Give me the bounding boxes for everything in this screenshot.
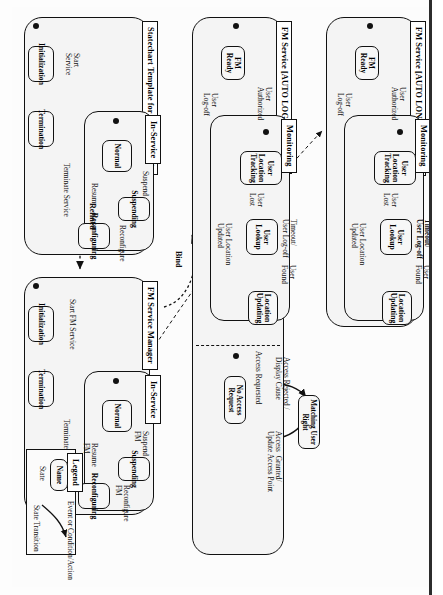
initial-pseudostate (367, 23, 373, 29)
orthogonal-region-separator (196, 345, 280, 346)
state-no-access-request[interactable]: No Access Request (224, 376, 246, 424)
initial-pseudostate (397, 129, 403, 135)
transition-label-user-location-updated: User Location Updated (349, 223, 366, 265)
legend-state-sample: Name (50, 459, 68, 491)
transition-label-access-rejected: Access Rejected / Display Cause (273, 357, 290, 410)
transition-label-user-authorized: User Authorized (255, 87, 272, 120)
subregion-monitoring-true[interactable] (210, 115, 290, 321)
state-suspending[interactable]: Suspending (118, 197, 150, 221)
legend-state-caption: State (38, 466, 46, 481)
initial-pseudostate (113, 118, 119, 124)
transition-label-access-granted: Access Granted/ Update Access Point (265, 431, 282, 492)
state-termination[interactable]: Termination (28, 371, 54, 407)
state-fm-ready[interactable]: FM Ready (221, 46, 245, 80)
transition-label-user-lost: User Lost (247, 193, 264, 207)
transition-label-user-found: User Found (413, 265, 430, 284)
state-initialization[interactable]: Initialization (28, 46, 54, 82)
state-normal[interactable]: Normal (102, 140, 132, 172)
transition-label-user-location-updated: User Location Updated (215, 223, 232, 265)
transition-label-start-fm-service: Start FM Service (68, 299, 76, 350)
legend-transition-caption: State Transition (32, 505, 40, 552)
state-location-updating[interactable]: Location Updating (248, 291, 278, 325)
transition-label-user-found: User Found (279, 265, 296, 284)
state-user-location-tracking[interactable]: User Location Tracking (374, 151, 416, 185)
transition-label-user-log-off: User Log-off (335, 93, 352, 116)
transition-label-timeout-user-log-off: Timeout/ User Log-off (280, 219, 297, 258)
transition-label-user-authorized: User Authorized (389, 87, 406, 120)
initial-pseudostate (233, 353, 239, 359)
relation-label-refined: Refined (87, 203, 96, 230)
transition-label-start-service: Start Service (63, 53, 80, 75)
transition-label-reconfigure: Reconfigure (118, 225, 126, 262)
state-user-location-tracking[interactable]: User Location Tracking (240, 151, 282, 185)
state-normal[interactable]: Normal (102, 400, 132, 432)
page-scan-edge (429, 0, 432, 595)
transition-label-access-requested: Access Requested (254, 351, 262, 405)
state-user-lookup[interactable]: User Lookup (380, 219, 412, 255)
transition-label-user-lost: User Lost (381, 193, 398, 207)
initial-pseudostate (33, 23, 39, 29)
region-title-fm-service-manager: FM Service Manager (142, 281, 158, 370)
state-user-lookup[interactable]: User Lookup (246, 219, 278, 255)
state-fm-ready[interactable]: FM Ready (355, 46, 379, 80)
relation-label-bind: Bind (173, 251, 182, 267)
initial-pseudostate (33, 283, 39, 289)
state-location-updating[interactable]: Location Updating (382, 291, 412, 325)
legend-transition-label: Event or Condition/Action (66, 501, 74, 580)
state-suspending[interactable]: Suspending (118, 457, 150, 481)
initial-pseudostate (263, 129, 269, 135)
transition-label-suspend-fm: Suspend FM (132, 431, 149, 456)
subregion-title-in-service-manager: In-Service (145, 375, 161, 424)
transition-label-reconfigure-fm: Reconfigure FM (113, 485, 130, 522)
state-initialization[interactable]: Initialization (28, 306, 54, 342)
initial-pseudostate (233, 23, 239, 29)
page-scan-outer-margin (436, 0, 443, 595)
rotated-figure-container: FM Service [AUTO LON-ON == False] Monito… (12, 7, 432, 587)
state-termination[interactable]: Termination (28, 111, 54, 147)
legend-title: Legend (67, 453, 83, 492)
transition-label-terminate-service: Terminate Service (62, 163, 70, 217)
subregion-monitoring-false[interactable] (344, 115, 424, 321)
subregion-title-monitoring-true: Monitoring (281, 119, 297, 173)
subregion-title-in-service-template: In-Service (145, 115, 161, 164)
transition-label-suspend: Suspend (141, 171, 149, 196)
transition-label-resume-fm: Resume FM (81, 443, 98, 467)
state-matching-user-right[interactable]: Matching User Right (298, 395, 320, 449)
initial-pseudostate (113, 378, 119, 384)
transition-label-user-log-off: User Log-off (201, 93, 218, 116)
